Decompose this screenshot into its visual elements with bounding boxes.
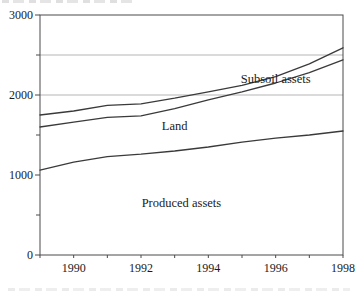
x-tick-label-1998: 1998 — [331, 261, 355, 275]
series-line-land — [40, 60, 343, 127]
y-tick-label-2000: 2000 — [9, 88, 33, 102]
y-tick-label-3000: 3000 — [9, 8, 33, 22]
annotation-land: Land — [162, 119, 188, 133]
x-tick-label-1990: 1990 — [62, 261, 86, 275]
y-tick-label-1000: 1000 — [9, 168, 33, 182]
x-tick-label-1994: 1994 — [196, 261, 220, 275]
stacked-line-chart: 010002000300019901992199419961998Subsoil… — [0, 0, 359, 294]
x-tick-label-1996: 1996 — [264, 261, 288, 275]
x-tick-label-1992: 1992 — [129, 261, 153, 275]
annotation-produced-assets: Produced assets — [142, 196, 222, 210]
annotation-subsoil-assets: Subsoil assets — [241, 72, 311, 86]
figure-canvas: 010002000300019901992199419961998Subsoil… — [0, 0, 359, 294]
plot-border — [40, 15, 343, 255]
series-line-produced-assets — [40, 131, 343, 170]
y-tick-label-0: 0 — [27, 248, 33, 262]
clipped-text-bottom — [8, 288, 350, 291]
